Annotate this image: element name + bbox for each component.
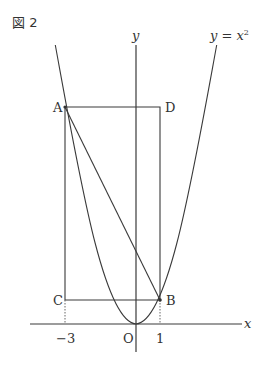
tick-label-neg3: −3 xyxy=(56,331,75,346)
segment-ab xyxy=(65,107,160,300)
point-b-label: B xyxy=(166,293,176,308)
point-a-label: A xyxy=(52,100,63,115)
point-d-label: D xyxy=(165,100,175,115)
y-axis-label: y xyxy=(131,28,140,43)
point-a-marker xyxy=(63,105,66,108)
x-axis-label: x xyxy=(244,316,252,331)
point-c-label: C xyxy=(53,293,63,308)
point-b-marker xyxy=(158,298,162,302)
tick-label-1: 1 xyxy=(156,331,164,346)
diagram-canvas: 図 2 A D C B y x O −3 1 y = x2 xyxy=(0,0,267,369)
origin-label: O xyxy=(123,331,134,346)
figure-label: 図 2 xyxy=(12,15,37,30)
curve-label: y = x2 xyxy=(209,28,249,43)
